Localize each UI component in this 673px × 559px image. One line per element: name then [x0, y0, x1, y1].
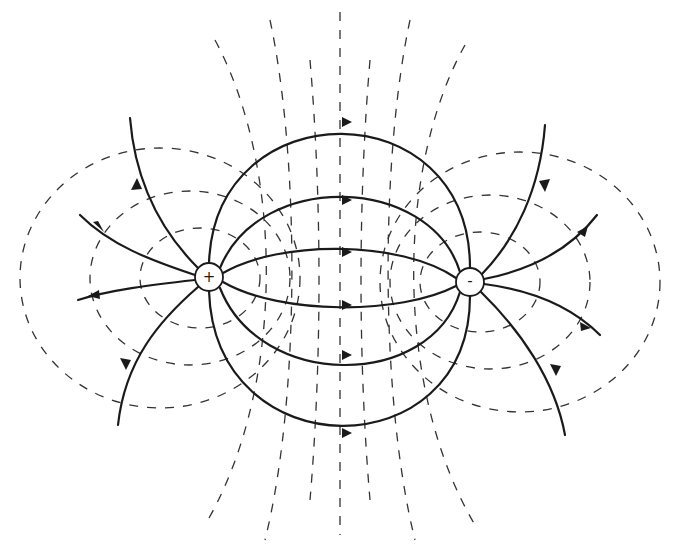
equipotential-right-outer	[380, 152, 660, 412]
arrow-right-icon	[342, 428, 352, 438]
field-line-right-1	[482, 125, 545, 274]
field-line-left-1	[130, 118, 198, 268]
equipotential-left-near-1	[265, 20, 292, 540]
field-line-left-4	[118, 287, 198, 425]
positive-charge: +	[195, 263, 223, 291]
positive-charge-label: +	[203, 268, 216, 286]
arrow-outward-icon	[539, 179, 550, 192]
negative-charge: -	[456, 268, 484, 296]
equipotential-left-near-0	[310, 60, 319, 500]
negative-charge-label: -	[467, 272, 472, 290]
equipotential-right-near-0	[361, 60, 370, 500]
arrow-outward-icon	[120, 358, 131, 370]
arrow-right-icon	[342, 300, 352, 310]
equipotential-lines	[20, 12, 660, 540]
dipole-diagram: + -	[0, 0, 673, 559]
equipotential-right-near-1	[388, 20, 415, 540]
arrow-right-icon	[342, 117, 352, 127]
field-lines	[78, 118, 600, 435]
equipotential-left-outer	[20, 148, 300, 408]
dipole-svg: + -	[0, 0, 673, 559]
arrow-outward-icon	[131, 178, 142, 190]
field-line-right-2	[484, 215, 597, 279]
field-arrows	[88, 117, 591, 438]
arrow-outward-icon	[550, 364, 561, 376]
arrow-right-icon	[342, 350, 352, 360]
equipotential-right-mid	[390, 195, 590, 369]
